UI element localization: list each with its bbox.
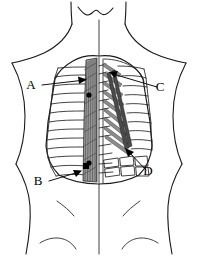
- neck-right-outline: [125, 2, 126, 24]
- anatomy-diagram-svg: Posterior trunk musculature diagram: [0, 0, 203, 256]
- anatomy-figure: Posterior trunk musculature diagram: [0, 0, 203, 256]
- label-a-text: A: [26, 77, 36, 92]
- flank-crease-left: [57, 201, 74, 216]
- gluteal-curve-left: [40, 238, 76, 249]
- shoulder-slope-left: [12, 24, 72, 63]
- shoulder-slope-right: [125, 24, 186, 63]
- waist-left: [16, 164, 30, 254]
- nape-curve: [78, 7, 113, 15]
- torso-left-flank: [12, 63, 25, 164]
- label-d-text: D: [143, 163, 152, 178]
- label-b-square-marker: [83, 163, 89, 169]
- flank-crease-right: [123, 201, 140, 216]
- waist-right: [168, 164, 182, 254]
- label-c-text: C: [156, 79, 165, 94]
- neck-left-outline: [71, 2, 72, 24]
- gluteal-curve-right: [122, 238, 158, 249]
- dot-upper-left: [86, 92, 91, 97]
- torso-right-flank: [173, 63, 186, 164]
- label-b-text: B: [34, 173, 43, 188]
